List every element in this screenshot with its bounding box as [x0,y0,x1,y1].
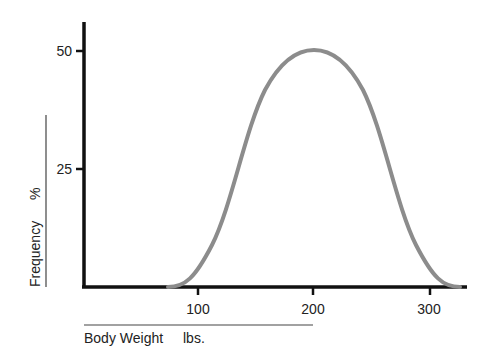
distribution-curve [168,50,460,287]
y-axis-title: Frequency [27,221,43,287]
y-tick-label-50: 50 [56,43,72,59]
y-axis-unit: % [27,188,43,200]
x-axis-unit: lbs. [183,330,205,346]
x-tick-label-200: 200 [301,301,325,317]
y-tick-label-25: 25 [56,161,72,177]
bell-curve-chart: 50 25 100 200 300 Body Weight lbs. Frequ… [0,0,493,363]
x-tick-label-300: 300 [417,301,441,317]
x-axis-title: Body Weight [84,330,163,346]
x-tick-label-100: 100 [186,301,210,317]
